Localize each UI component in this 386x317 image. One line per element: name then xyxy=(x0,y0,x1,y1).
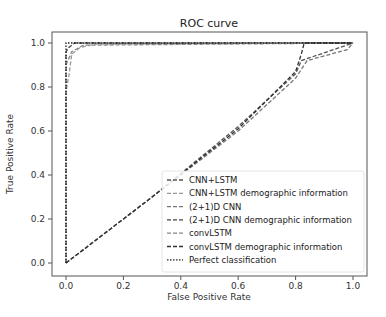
y-tick-label: 0.6 xyxy=(31,126,46,136)
x-tick-label: 0.6 xyxy=(231,281,246,291)
x-tick-label: 0.4 xyxy=(174,281,189,291)
x-axis-ticks: 0.00.20.40.60.81.0 xyxy=(59,276,361,291)
x-tick-label: 0.2 xyxy=(116,281,130,291)
y-tick-label: 0.4 xyxy=(31,170,46,180)
y-tick-label: 0.2 xyxy=(31,214,45,224)
x-tick-label: 0.0 xyxy=(59,281,74,291)
x-tick-label: 1.0 xyxy=(346,281,361,291)
legend-label: convLSTM demographic information xyxy=(189,242,342,252)
y-tick-label: 0.0 xyxy=(31,258,46,268)
legend-label: (2+1)D CNN xyxy=(189,202,241,212)
x-axis-label: False Positive Rate xyxy=(167,292,251,302)
legend: CNN+LSTMCNN+LSTM demographic information… xyxy=(162,171,364,272)
legend-label: Perfect classification xyxy=(189,255,276,265)
chart-title: ROC curve xyxy=(180,17,239,30)
y-axis-ticks: 0.00.20.40.60.81.0 xyxy=(31,38,52,268)
y-axis-label: True Positive Rate xyxy=(5,113,15,195)
x-tick-label: 0.8 xyxy=(288,281,303,291)
roc-chart: ROC curve 0.00.20.40.60.81.0 0.00.20.40.… xyxy=(0,0,386,317)
legend-label: CNN+LSTM xyxy=(189,175,237,185)
legend-label: CNN+LSTM demographic information xyxy=(189,188,348,198)
legend-label: convLSTM xyxy=(189,228,232,238)
y-tick-label: 1.0 xyxy=(31,38,46,48)
y-tick-label: 0.8 xyxy=(31,82,46,92)
legend-label: (2+1)D CNN demographic information xyxy=(189,215,352,225)
